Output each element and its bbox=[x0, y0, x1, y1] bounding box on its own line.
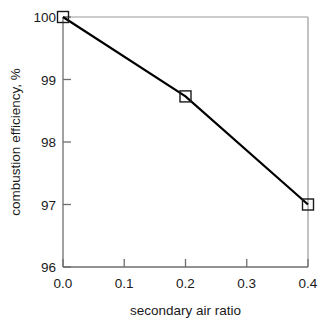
x-tick-label-0.3: 0.3 bbox=[237, 276, 256, 291]
x-tick-label-0.2: 0.2 bbox=[176, 276, 195, 291]
y-tick-label-97: 97 bbox=[41, 198, 56, 213]
chart-background bbox=[0, 0, 334, 326]
data-point-marker-0 bbox=[58, 12, 69, 23]
y-tick-label-99: 99 bbox=[41, 73, 56, 88]
y-axis-title: combustion efficiency, % bbox=[8, 68, 23, 215]
chart-figure: 96 97 98 99 100 0.0 0.1 0.2 0.3 0.4 seco… bbox=[0, 0, 334, 326]
x-tick-label-0.1: 0.1 bbox=[115, 276, 134, 291]
y-tick-label-100: 100 bbox=[33, 10, 56, 25]
combustion-efficiency-line-chart: 96 97 98 99 100 0.0 0.1 0.2 0.3 0.4 seco… bbox=[0, 0, 334, 326]
y-tick-label-98: 98 bbox=[41, 135, 56, 150]
x-axis-title: secondary air ratio bbox=[130, 303, 241, 318]
x-tick-label-0.4: 0.4 bbox=[299, 276, 318, 291]
data-point-marker-1 bbox=[180, 91, 191, 102]
x-tick-label-0.0: 0.0 bbox=[54, 276, 73, 291]
y-tick-label-96: 96 bbox=[41, 260, 56, 275]
data-point-marker-2 bbox=[303, 199, 314, 210]
